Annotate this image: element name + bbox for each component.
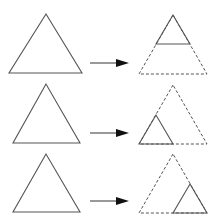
- row-top-corner: [9, 14, 207, 74]
- target-outline-dashed: [139, 154, 207, 213]
- arrow-icon: [116, 197, 129, 205]
- target-subtriangle-top: [156, 15, 190, 44]
- arrow-icon: [116, 59, 129, 67]
- row-bottom-right-corner: [13, 154, 207, 213]
- target-subtriangle-bottom-left: [139, 115, 173, 144]
- row-bottom-left-corner: [13, 84, 207, 144]
- arrow-icon: [116, 129, 129, 137]
- source-triangle: [13, 154, 80, 212]
- target-subtriangle-bottom-right: [173, 184, 207, 213]
- target-outline-dashed: [139, 85, 207, 144]
- source-triangle: [13, 84, 80, 143]
- triangle-subdivision-diagram: [0, 0, 222, 220]
- source-triangle: [9, 14, 82, 73]
